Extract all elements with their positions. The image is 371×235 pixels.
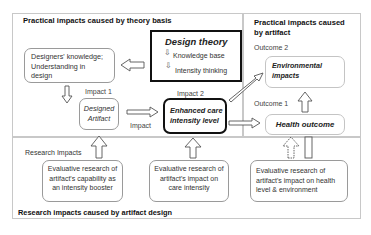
arrow-up-icon <box>91 136 107 158</box>
arrow-right-icon <box>127 107 158 117</box>
arrow-left-icon <box>121 59 144 71</box>
arrows-layer <box>0 0 371 235</box>
arrow-up-icon <box>283 137 299 158</box>
arrow-up-icon <box>185 138 201 158</box>
arrow-down-icon <box>62 86 72 103</box>
connector-bar <box>305 137 312 158</box>
arrow-right-icon <box>229 118 260 128</box>
arrow-up-icon <box>298 92 312 112</box>
arrow-diagonal-icon <box>229 73 263 102</box>
